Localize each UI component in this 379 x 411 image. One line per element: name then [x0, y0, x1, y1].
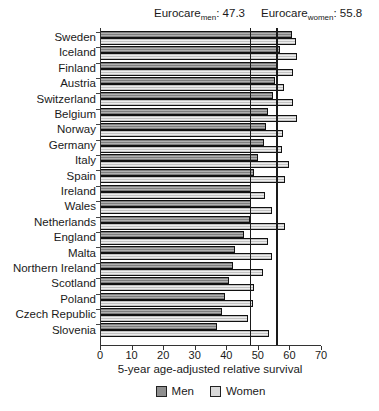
category-tick	[96, 247, 100, 248]
legend-item-women: Women	[210, 385, 265, 397]
bar-track	[100, 108, 320, 122]
bar-women	[100, 69, 293, 76]
country-label: Scotland	[0, 278, 100, 290]
bar-track	[100, 200, 320, 214]
category-tick	[96, 155, 100, 156]
country-row: Finland	[0, 61, 320, 76]
bar-track	[100, 92, 320, 106]
country-label: England	[0, 232, 100, 244]
bar-men	[100, 246, 235, 253]
bar-women	[100, 38, 296, 45]
country-row: Scotland	[0, 277, 320, 292]
bar-men	[100, 262, 233, 269]
bar-men	[100, 185, 251, 192]
country-label: Germany	[0, 140, 100, 152]
bar-men	[100, 62, 277, 69]
country-row: Germany	[0, 138, 320, 153]
country-label: Slovenia	[0, 325, 100, 337]
eurocare-women-annotation: Eurocarewomen: 55.8	[261, 7, 379, 22]
country-label: Netherlands	[0, 217, 100, 229]
country-label: Malta	[0, 248, 100, 260]
category-tick	[96, 47, 100, 48]
bar-track	[100, 154, 320, 168]
bar-men	[100, 139, 264, 146]
country-row: Sweden	[0, 30, 320, 45]
chart-rows: SwedenIcelandFinlandAustriaSwitzerlandBe…	[0, 30, 320, 338]
category-tick	[96, 324, 100, 325]
bar-men	[100, 323, 217, 330]
bar-track	[100, 169, 320, 183]
country-row: Iceland	[0, 45, 320, 60]
x-tick-label: 0	[97, 349, 103, 361]
eurocare-men-base: Eurocare	[154, 7, 201, 19]
bar-track	[100, 216, 320, 230]
bar-women	[100, 146, 282, 153]
bar-track	[100, 246, 320, 260]
x-tick-label: 50	[252, 349, 264, 361]
category-tick	[96, 109, 100, 110]
country-label: Austria	[0, 78, 100, 90]
bar-men	[100, 277, 229, 284]
bar-track	[100, 31, 320, 45]
eurocare-men-value: : 47.3	[216, 7, 245, 19]
bar-track	[100, 46, 320, 60]
country-label: Switzerland	[0, 94, 100, 106]
bar-women	[100, 53, 297, 60]
bar-women	[100, 161, 289, 168]
bar-track	[100, 262, 320, 276]
eurocare-men-annotation: Eurocaremen: 47.3	[110, 7, 245, 22]
category-tick	[96, 294, 100, 295]
bar-men	[100, 154, 258, 161]
country-label: Italy	[0, 155, 100, 167]
country-label: Sweden	[0, 32, 100, 44]
legend-label-men: Men	[172, 385, 194, 397]
bar-women	[100, 315, 248, 322]
x-tick-label: 10	[125, 349, 137, 361]
bar-men	[100, 77, 275, 84]
bar-women	[100, 253, 272, 260]
country-row: Spain	[0, 169, 320, 184]
bar-women	[100, 176, 285, 183]
country-label: Poland	[0, 294, 100, 306]
country-label: Northern Ireland	[0, 263, 100, 275]
country-row: Wales	[0, 199, 320, 214]
bar-track	[100, 123, 320, 137]
category-tick	[96, 140, 100, 141]
bar-men	[100, 31, 292, 38]
category-tick	[96, 170, 100, 171]
bar-men	[100, 200, 251, 207]
x-tick-label: 60	[283, 349, 295, 361]
bar-women	[100, 269, 263, 276]
bar-track	[100, 139, 320, 153]
men-swatch-icon	[156, 386, 167, 397]
country-row: Ireland	[0, 184, 320, 199]
country-label: Iceland	[0, 47, 100, 59]
country-label: Norway	[0, 124, 100, 136]
legend-label-women: Women	[226, 385, 265, 397]
category-tick	[96, 263, 100, 264]
country-row: Italy	[0, 153, 320, 168]
bar-track	[100, 185, 320, 199]
bar-women	[100, 223, 285, 230]
bar-track	[100, 62, 320, 76]
bar-track	[100, 277, 320, 291]
bar-track	[100, 323, 320, 337]
bar-track	[100, 308, 320, 322]
country-label: Wales	[0, 201, 100, 213]
category-tick	[96, 232, 100, 233]
country-label: Spain	[0, 171, 100, 183]
x-tick-label: 30	[189, 349, 201, 361]
bar-track	[100, 293, 320, 307]
bar-women	[100, 284, 254, 291]
country-label: Finland	[0, 63, 100, 75]
x-tick-label: 20	[157, 349, 169, 361]
category-tick	[96, 93, 100, 94]
bar-track	[100, 77, 320, 91]
category-tick	[96, 217, 100, 218]
country-label: Belgium	[0, 109, 100, 121]
bar-women	[100, 99, 293, 106]
bar-women	[100, 84, 284, 91]
country-row: Netherlands	[0, 215, 320, 230]
survival-bar-chart: Eurocaremen: 47.3 Eurocarewomen: 55.8 Sw…	[0, 0, 379, 411]
bar-women	[100, 192, 265, 199]
